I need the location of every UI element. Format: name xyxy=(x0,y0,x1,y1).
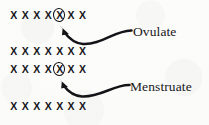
day-mark: X xyxy=(10,10,17,21)
day-mark: X xyxy=(33,64,40,75)
day-mark: X xyxy=(10,46,17,57)
day-mark: X xyxy=(67,64,74,75)
mark-row-1: X X X X X X X xyxy=(10,10,86,21)
mark-row-4: X X X X X X X xyxy=(10,101,86,112)
day-mark: X xyxy=(21,101,28,112)
day-mark: X xyxy=(33,101,40,112)
day-mark: X xyxy=(67,10,74,21)
figure-canvas: X X X X X X X X X X X X X X X X X X X X … xyxy=(0,0,209,125)
day-mark: X xyxy=(33,10,40,21)
mark-row-3: X X X X X X X xyxy=(10,64,86,75)
day-mark: X xyxy=(79,10,86,21)
label-menstruate: Menstruate xyxy=(130,79,192,95)
day-mark-circled-menstruate: X xyxy=(56,64,63,75)
day-mark: X xyxy=(44,64,51,75)
day-mark: X xyxy=(44,101,51,112)
day-mark: X xyxy=(79,101,86,112)
day-mark: X xyxy=(10,101,17,112)
day-mark: X xyxy=(56,101,63,112)
day-mark: X xyxy=(21,46,28,57)
day-mark: X xyxy=(56,46,63,57)
label-ovulate: Ovulate xyxy=(133,24,176,40)
mark-row-2: X X X X X X X xyxy=(10,46,86,57)
day-mark: X xyxy=(79,64,86,75)
day-mark: X xyxy=(67,46,74,57)
menstruate-arrow xyxy=(58,78,130,97)
day-mark: X xyxy=(33,46,40,57)
day-mark: X xyxy=(21,64,28,75)
menstruate-arrowhead xyxy=(58,78,68,89)
day-mark-circled-ovulate: X xyxy=(56,10,63,21)
day-mark: X xyxy=(44,46,51,57)
day-mark: X xyxy=(44,10,51,21)
day-mark: X xyxy=(67,101,74,112)
ovulate-arrow xyxy=(59,25,132,44)
ovulate-arrowhead xyxy=(59,25,69,36)
day-mark: X xyxy=(10,64,17,75)
day-mark: X xyxy=(21,10,28,21)
day-mark: X xyxy=(79,46,86,57)
